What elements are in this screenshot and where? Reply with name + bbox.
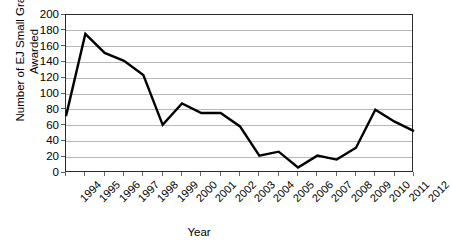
plot-area [65,14,413,172]
x-axis-tick-mark [104,172,105,176]
x-axis-tick-mark [394,172,395,176]
x-axis-tick-mark [278,172,279,176]
x-axis-tick-mark [65,172,66,176]
y-axis-tick-label: 40 [31,135,59,145]
x-axis-tick-mark [162,172,163,176]
x-axis-tick-mark [181,172,182,176]
x-axis-title: Year [0,226,430,238]
x-axis-tick-mark [374,172,375,176]
x-axis-tick-label: 2012 [426,179,451,204]
x-axis-tick-mark [316,172,317,176]
y-axis-tick-label: 180 [31,25,59,35]
x-axis-tick-mark [413,172,414,176]
y-axis-tick-label: 100 [31,88,59,98]
y-axis-tick-label: 20 [31,151,59,161]
y-axis-tick-label: 140 [31,56,59,66]
x-axis-tick-mark [123,172,124,176]
x-axis-tick-mark [220,172,221,176]
x-axis-tick-mark [336,172,337,176]
y-axis-tick-label: 160 [31,41,59,51]
x-axis-tick-mark [239,172,240,176]
x-axis-tick-mark [258,172,259,176]
x-axis-tick-mark [297,172,298,176]
x-axis-tick-mark [84,172,85,176]
y-axis-tick-label: 80 [31,104,59,114]
y-axis-tick-label: 120 [31,72,59,82]
series-line [66,34,414,168]
y-axis-tick-labels: 020406080100120140160180200 [31,0,59,248]
x-axis-tick-label: 2011 [407,179,432,204]
y-axis-tick-label: 60 [31,120,59,130]
y-axis-tick-label: 200 [31,9,59,19]
x-axis-tick-mark [142,172,143,176]
line-series [66,15,414,173]
x-axis-title-text: Year [187,226,210,238]
x-axis-tick-mark [355,172,356,176]
y-axis-title-line-1: Number of EJ Small Grants [14,0,28,137]
x-axis-tick-mark [200,172,201,176]
y-axis-tick-label: 0 [31,167,59,177]
